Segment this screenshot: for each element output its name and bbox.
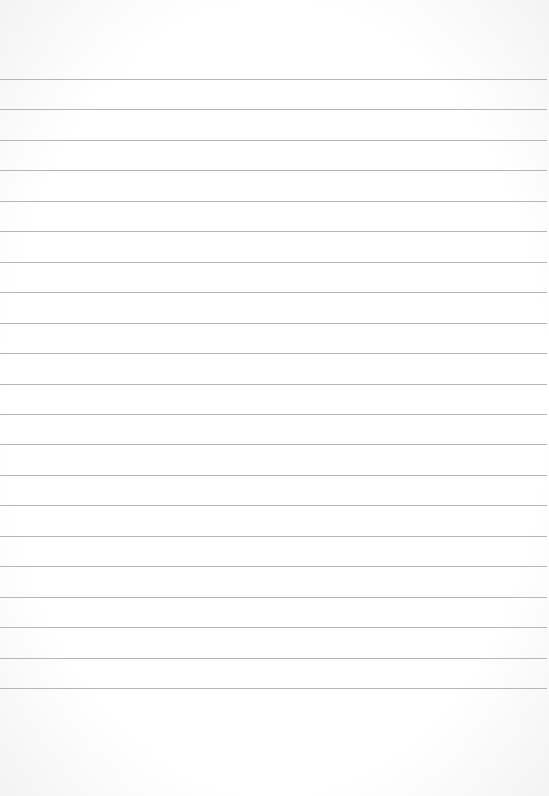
- ruled-line: [0, 597, 547, 598]
- ruled-line: [0, 231, 547, 232]
- ruled-line: [0, 79, 547, 80]
- ruled-line: [0, 262, 547, 263]
- ruled-line: [0, 536, 547, 537]
- ruled-line: [0, 140, 547, 141]
- ruled-line: [0, 505, 547, 506]
- ruled-line: [0, 292, 547, 293]
- ruled-line: [0, 323, 547, 324]
- lined-paper-sheet: [0, 0, 549, 796]
- ruled-line: [0, 444, 547, 445]
- ruled-line: [0, 475, 547, 476]
- ruled-line: [0, 688, 547, 689]
- ruled-line: [0, 170, 547, 171]
- ruled-line: [0, 627, 547, 628]
- ruled-line: [0, 201, 547, 202]
- ruled-line: [0, 109, 547, 110]
- ruled-line: [0, 353, 547, 354]
- ruled-line: [0, 384, 547, 385]
- ruled-line: [0, 658, 547, 659]
- ruled-line: [0, 566, 547, 567]
- ruled-line: [0, 414, 547, 415]
